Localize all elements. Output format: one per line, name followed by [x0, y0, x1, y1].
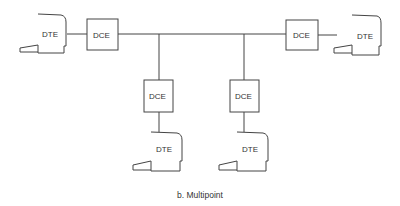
dte-bottom-right-label: DTE: [242, 145, 258, 154]
dce-bottom-left-label: DCE: [149, 92, 166, 101]
dte-right-label: DTE: [357, 32, 373, 41]
multipoint-diagram: DTE DCE DCE DTE DCE DTE DCE DTE: [0, 0, 400, 206]
dce-right-label: DCE: [293, 31, 310, 40]
dte-bottom-left-label: DTE: [156, 145, 172, 154]
dce-bottom-right-label: DCE: [235, 92, 252, 101]
dce-left-label: DCE: [93, 31, 110, 40]
diagram-caption: b. Multipoint: [0, 190, 400, 200]
dte-left-label: DTE: [42, 30, 58, 39]
